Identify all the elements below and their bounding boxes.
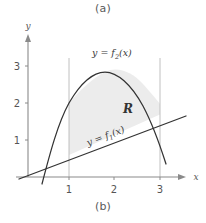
plot-canvas: 1 2 3 1 2 3 y x y = f2(x) y = f1(x) R (0, 18, 206, 200)
figure-container: (a) 1 2 3 1 2 3 y x (0, 0, 206, 223)
x-tick-label-1: 1 (66, 184, 72, 195)
y-axis-title: y (24, 21, 31, 31)
y-tick-label-3: 3 (14, 61, 20, 72)
curve-f2-label-suffix: (x) (119, 47, 132, 58)
curve-f2-label-prefix: y = f (91, 47, 116, 58)
x-axis-arrow-icon (178, 174, 186, 180)
x-tick-label-3: 3 (157, 184, 163, 195)
region-label-R: R (122, 102, 133, 116)
y-tick-label-2: 2 (14, 98, 20, 109)
curve-f2-label: y = f2(x) (91, 47, 132, 61)
x-tick-label-2: 2 (111, 184, 117, 195)
y-axis-arrow-icon (25, 34, 31, 42)
panel-caption-a: (a) (0, 2, 206, 15)
panel-caption-b: (b) (0, 200, 206, 213)
x-axis-title: x (193, 172, 198, 182)
y-tick-label-1: 1 (14, 135, 20, 146)
